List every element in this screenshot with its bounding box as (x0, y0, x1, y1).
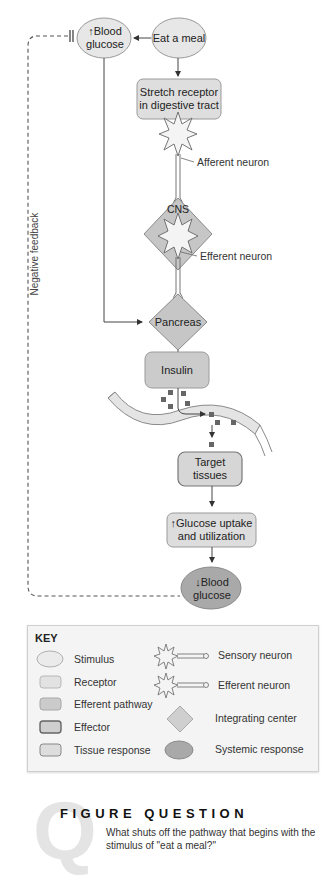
key-systemic-response-label: Systemic response (215, 743, 304, 755)
afferent-neuron-label: Afferent neuron (197, 156, 269, 168)
question-q-icon: Q (33, 790, 97, 872)
figure-question-title: FIGURE QUESTION (60, 806, 248, 821)
systemic-response-swatch (165, 741, 193, 759)
key-stimulus-label: Stimulus (74, 653, 114, 665)
pancreas-label: Pancreas (150, 316, 206, 329)
key-tissue-response-label: Tissue response (74, 744, 151, 756)
receptor-swatch (40, 676, 61, 688)
key-efferent-pathway-label: Efferent pathway (74, 698, 153, 710)
blood-vessel (108, 392, 260, 434)
eat-meal-label: Eat a meal (152, 32, 206, 45)
efferent-pathway-swatch (40, 698, 61, 710)
key-receptor-label: Receptor (74, 676, 117, 688)
glucose-uptake-label: ↑Glucose uptake and utilization (167, 517, 256, 543)
sensory-neuron-swatch (154, 644, 178, 669)
tissue-response-swatch (40, 744, 61, 756)
key-effector-label: Effector (74, 721, 110, 733)
sensory-neuron-star (159, 112, 197, 156)
effector-swatch (40, 721, 61, 733)
negative-feedback-label: Negative feedback (29, 216, 40, 296)
key-efferent-neuron-label: Efferent neuron (218, 679, 290, 691)
stimulus-swatch (37, 651, 63, 667)
target-tissues-label: Target tissues (178, 456, 242, 482)
key-integrating-center-label: Integrating center (215, 712, 297, 724)
figure-question-text: What shuts off the pathway that begins w… (106, 826, 316, 852)
efferent-neuron-swatch (154, 673, 178, 698)
blood-glucose-down-label: ↓Blood glucose (186, 576, 238, 602)
blood-glucose-up-label: ↑Blood glucose (80, 25, 130, 51)
key-sensory-neuron-label: Sensory neuron (218, 649, 292, 661)
efferent-neuron-label: Efferent neuron (200, 250, 272, 262)
insulin-label: Insulin (145, 364, 209, 377)
integrating-center-swatch (167, 706, 193, 732)
stretch-receptor-label: Stretch receptor in digestive tract (137, 86, 221, 112)
cns-label: CNS (158, 203, 198, 216)
legend-key: KEY Stimulus Receptor Efferent pathway E… (27, 625, 319, 772)
efferent-neuron-star (158, 213, 198, 259)
